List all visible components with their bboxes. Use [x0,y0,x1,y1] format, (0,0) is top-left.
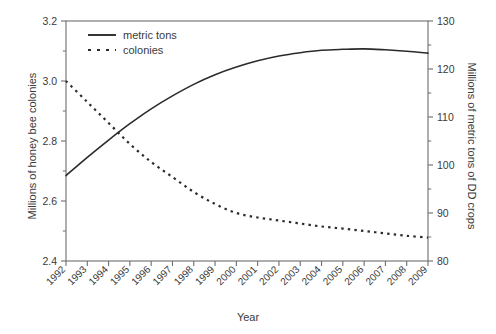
x-tick-label: 2008 [385,263,409,287]
chart-legend: metric tonscolonies [88,29,177,56]
x-tick-label: 2007 [363,263,387,287]
axis-ticks [61,21,433,266]
x-tick-label: 2004 [299,263,323,287]
x-tick-label: 1992 [44,263,68,287]
x-tick-label: 2005 [321,263,345,287]
y-left-tick-label: 3.2 [42,15,57,27]
series-line-colonies [66,81,428,238]
plot-frame [66,21,428,261]
legend-label: colonies [123,44,164,56]
x-tick-label: 2006 [342,263,366,287]
honey-bee-chart-figure: 3.23.02.82.62.4 1301201101009080 1992199… [0,0,496,334]
x-tick-label: 1996 [129,263,153,287]
series-line-metric-tons [66,49,428,176]
x-tick-label: 2000 [214,263,238,287]
x-tick-label: 2002 [257,263,281,287]
y-right-tick-label: 120 [437,63,455,75]
legend-label: metric tons [123,29,177,41]
y-axis-right-tick-labels: 1301201101009080 [437,15,455,267]
x-axis-tick-labels: 1992199319941995199619971998199920002001… [44,263,430,287]
y-axis-left-title: Millions of honey bee colonies [26,51,38,241]
data-series [66,49,428,238]
x-tick-label: 1995 [108,263,132,287]
x-tick-label: 2001 [236,263,260,287]
plot-frame-rect [66,21,428,261]
y-left-tick-label: 2.8 [42,135,57,147]
x-tick-label: 1997 [150,263,174,287]
x-tick-label: 1993 [65,263,89,287]
y-left-tick-label: 3.0 [42,75,57,87]
y-right-tick-label: 110 [437,111,454,123]
y-right-tick-label: 100 [437,159,455,171]
x-tick-label: 2003 [278,263,302,287]
x-tick-label: 2009 [406,263,430,287]
y-left-tick-label: 2.4 [42,255,57,267]
y-axis-left-tick-labels: 3.23.02.82.62.4 [42,15,57,267]
x-axis-title: Year [0,311,496,323]
y-left-tick-label: 2.6 [42,195,57,207]
y-axis-right-title: Millions of metric tons of DD crops [466,51,478,241]
y-right-tick-label: 80 [437,255,449,267]
x-tick-label: 1998 [172,263,196,287]
y-right-tick-label: 90 [437,207,449,219]
y-right-tick-label: 130 [437,15,455,27]
x-tick-label: 1994 [86,263,110,287]
x-tick-label: 1999 [193,263,217,287]
chart-plot-area: 3.23.02.82.62.4 1301201101009080 1992199… [0,0,496,334]
